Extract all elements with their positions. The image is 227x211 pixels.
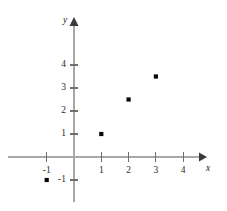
x-tick-label: 2 bbox=[126, 165, 131, 175]
y-tick-label: -1 bbox=[58, 174, 66, 184]
data-point-marker bbox=[154, 74, 158, 78]
axes-group bbox=[8, 17, 207, 202]
y-tick-label: 2 bbox=[61, 105, 66, 115]
x-axis-ticks: -11234 bbox=[43, 152, 186, 175]
x-tick-label: -1 bbox=[43, 165, 51, 175]
scatter-plot-figure: -11234 -11234 x y bbox=[0, 0, 227, 211]
x-axis-label: x bbox=[205, 163, 211, 173]
y-tick-label: 4 bbox=[61, 59, 66, 69]
x-tick-label: 4 bbox=[181, 165, 186, 175]
y-axis-arrowhead bbox=[70, 17, 79, 26]
y-tick-label: 3 bbox=[61, 82, 66, 92]
y-axis-ticks: -11234 bbox=[58, 59, 78, 184]
y-tick-label: 1 bbox=[61, 128, 66, 138]
data-point-marker bbox=[45, 178, 49, 182]
y-axis-label: y bbox=[62, 15, 68, 25]
data-point-marker bbox=[99, 132, 103, 136]
coordinate-plane-svg: -11234 -11234 x y bbox=[0, 0, 227, 211]
x-tick-label: 3 bbox=[154, 165, 159, 175]
x-tick-label: 1 bbox=[99, 165, 104, 175]
data-point-marker bbox=[127, 97, 131, 101]
x-axis-arrowhead bbox=[199, 153, 207, 162]
